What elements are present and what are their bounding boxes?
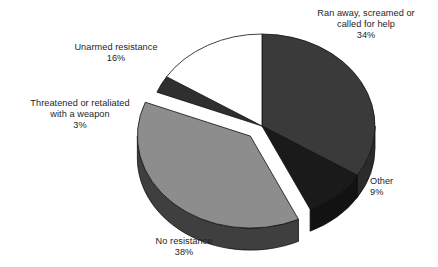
slice-label-threatened: Threatened or retaliated with a weapon 3… <box>4 98 156 132</box>
slice-label-ran-away-line1: Ran away, screamed or <box>296 8 436 19</box>
slice-label-unarmed-resistance: Unarmed resistance 16% <box>54 42 178 64</box>
slice-value-ran-away: 34% <box>296 30 436 41</box>
slice-label-no-resistance-line1: No resistance <box>122 236 246 247</box>
slice-label-ran-away-line2: called for help <box>296 19 436 30</box>
slice-label-other: Other 9% <box>370 176 430 198</box>
slice-value-other: 9% <box>370 187 430 198</box>
slice-label-unarmed-resistance-line1: Unarmed resistance <box>54 42 178 53</box>
slice-label-no-resistance: No resistance 38% <box>122 236 246 258</box>
slice-value-unarmed-resistance: 16% <box>54 53 178 64</box>
slice-label-threatened-line2: with a weapon <box>4 109 156 120</box>
slice-label-other-line1: Other <box>370 176 430 187</box>
slice-label-ran-away: Ran away, screamed or called for help 34… <box>296 8 436 42</box>
slice-label-threatened-line1: Threatened or retaliated <box>4 98 156 109</box>
pie-chart: Ran away, screamed or called for help 34… <box>0 0 438 267</box>
slice-value-no-resistance: 38% <box>122 247 246 258</box>
slice-value-threatened: 3% <box>4 120 156 131</box>
